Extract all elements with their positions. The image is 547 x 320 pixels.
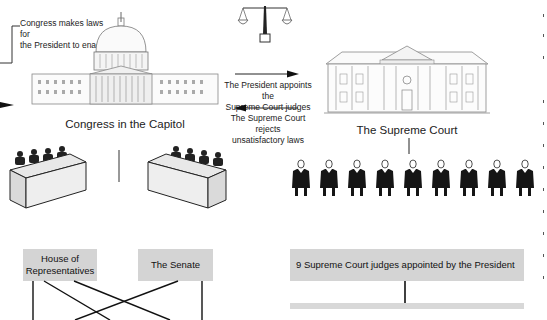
capitol-building-illustration [30, 10, 220, 105]
scales-of-justice-icon [235, 2, 295, 42]
senate-desk-illustration [146, 148, 236, 218]
arrow-president-appoints-icon [233, 70, 303, 80]
judge-figure-icon [292, 160, 310, 196]
house-line2: Representatives [26, 265, 95, 277]
court-rejects-line2: unsatisfactory laws [218, 135, 318, 146]
judge-figure-icon [320, 160, 338, 196]
judge-figure-icon [460, 160, 478, 196]
congress-connector-lines [20, 280, 220, 320]
capitol-caption: Congress in the Capitol [30, 118, 220, 130]
supreme-court-building-illustration [322, 42, 492, 117]
court-rejects-text: The Supreme Court rejects unsatisfactory… [218, 113, 318, 146]
next-box-partial [290, 303, 524, 309]
judge-figure-icon [404, 160, 422, 196]
judges-row-illustration [284, 154, 544, 214]
judges-label: 9 Supreme Court judges appointed by the … [296, 259, 515, 271]
supreme-court-judges-box: 9 Supreme Court judges appointed by the … [290, 249, 524, 281]
judges-connector-line [404, 281, 408, 305]
right-edge-marks [541, 0, 547, 309]
president-appoints-line1: The President appoints the [218, 80, 318, 102]
senate-label: The Senate [151, 259, 200, 271]
house-desk-illustration [8, 148, 98, 218]
judge-figure-icon [488, 160, 506, 196]
court-rejects-line1: The Supreme Court rejects [218, 113, 318, 135]
supreme-court-caption: The Supreme Court [322, 124, 492, 136]
senate-box: The Senate [138, 249, 213, 281]
judge-figure-icon [432, 160, 450, 196]
congress-center-divider [118, 150, 122, 186]
judge-figure-icon [348, 160, 366, 196]
arrow-into-congress-icon [0, 100, 20, 110]
judge-figure-icon [516, 160, 534, 196]
house-of-representatives-box: House of Representatives [23, 249, 97, 281]
judge-figure-icon [376, 160, 394, 196]
house-line1: House of [41, 253, 79, 265]
